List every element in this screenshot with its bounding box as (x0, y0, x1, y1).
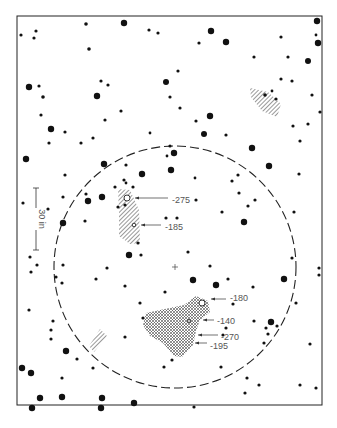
star (63, 173, 66, 176)
star (99, 194, 105, 200)
star (305, 58, 311, 64)
star (281, 276, 287, 282)
star (63, 130, 66, 133)
star (262, 341, 265, 344)
star (124, 163, 127, 166)
annotation: -195 (195, 341, 228, 351)
scale-label: 30 in (37, 209, 47, 229)
star (294, 301, 297, 304)
annotation-label: -180 (230, 293, 248, 303)
star (29, 270, 32, 273)
star (168, 167, 174, 173)
star (310, 93, 313, 96)
star (171, 150, 177, 156)
star (243, 391, 246, 394)
star (175, 216, 178, 219)
star (274, 97, 277, 100)
star (292, 210, 295, 213)
star (315, 34, 318, 37)
star (84, 192, 87, 195)
star (49, 328, 52, 331)
star (308, 342, 311, 345)
star (103, 118, 106, 121)
star (263, 93, 267, 97)
star (298, 139, 301, 142)
star (123, 284, 126, 287)
star (314, 18, 320, 24)
star (98, 405, 104, 411)
star (29, 405, 35, 411)
star (298, 383, 301, 386)
star (147, 28, 150, 31)
star (208, 28, 214, 34)
star (162, 365, 165, 368)
star (41, 95, 45, 99)
star (266, 163, 272, 169)
lower-left-patch (89, 329, 107, 352)
annotation: -180 (211, 293, 248, 303)
star (266, 332, 269, 335)
star (257, 383, 260, 386)
star (94, 277, 97, 280)
star (54, 275, 57, 278)
hatched-regions (89, 88, 281, 357)
star (192, 405, 195, 408)
star-field-chart: 30 in -275-185-180-140-270-195 (0, 0, 337, 428)
star (126, 252, 132, 258)
star (306, 122, 309, 125)
star (116, 205, 119, 208)
star (208, 264, 211, 267)
annotation: -185 (141, 222, 183, 232)
open-circle-marker (188, 320, 191, 323)
star (61, 195, 64, 198)
star (35, 263, 38, 266)
star (194, 119, 197, 122)
star (178, 106, 181, 109)
star (61, 263, 64, 266)
open-circle-marker (199, 300, 205, 306)
star (91, 136, 94, 139)
star (286, 55, 289, 58)
star (317, 266, 320, 269)
stars (19, 18, 322, 411)
star (252, 319, 255, 322)
star (197, 41, 200, 44)
star (168, 144, 171, 147)
star (19, 33, 22, 36)
star (28, 370, 34, 376)
star (149, 132, 152, 135)
star (279, 77, 282, 80)
star (136, 241, 139, 244)
star (59, 394, 65, 400)
scale-bar: 30 in (33, 188, 47, 250)
annotation-label: -140 (217, 316, 235, 326)
annotation-label: -275 (172, 195, 190, 205)
star (271, 90, 274, 93)
star (121, 20, 127, 26)
star (91, 366, 94, 369)
open-circle-marker (132, 223, 136, 227)
star (290, 256, 293, 259)
star (48, 126, 54, 132)
star (251, 285, 254, 288)
star (39, 113, 42, 116)
star (249, 145, 255, 151)
annotation-label: -185 (165, 222, 183, 232)
annotation: -275 (135, 195, 190, 205)
star (26, 84, 32, 90)
star (122, 178, 125, 181)
star (246, 204, 249, 207)
star (194, 198, 197, 201)
center-cross-icon (172, 264, 178, 270)
star (123, 335, 126, 338)
star (99, 395, 105, 401)
star (163, 79, 169, 85)
star (141, 316, 144, 319)
star (268, 319, 274, 325)
star (236, 173, 239, 176)
star (94, 93, 100, 99)
star (290, 79, 293, 82)
star (230, 179, 233, 182)
star (84, 22, 88, 26)
star (253, 198, 256, 201)
